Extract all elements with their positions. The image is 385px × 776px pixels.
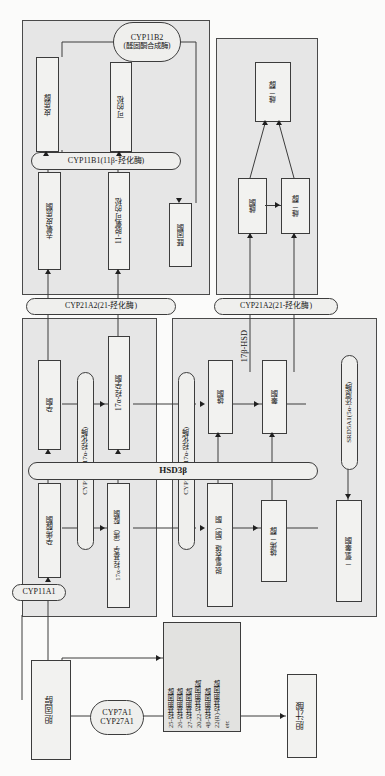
enzyme-srd5a1[interactable]: SRD5A1(5α-还原酶): [341, 355, 358, 470]
oxysterol-list[interactable]: 25-羟基胆固醇, 26-羟基胆固醇, 27-羟基胆固醇, 20,22-羟基胆固…: [163, 622, 241, 732]
arrow-to-estrone: [247, 233, 253, 238]
metabolite-androstenedione[interactable]: 雄酮: [208, 360, 233, 434]
metabolite-17a-hydroxypregnenolone[interactable]: 17α-羟基孕（烯）醇酮: [107, 483, 130, 608]
metabolite-testosterone-label: 睾酮: [271, 390, 279, 404]
enzyme-cyp7a1-cyp27a1[interactable]: CYP7A1 CYP27A1: [90, 700, 144, 735]
arrow-to-cortisol: [43, 151, 49, 156]
arrow-cholesterol-to-oxysterols: [156, 655, 161, 661]
arrow-to-17a-hydroxyprogesterone: [115, 449, 121, 454]
enzyme-cyp17a1-left-label: CYP17A1(17α-羟化酶): [82, 427, 89, 495]
arrow-progesterone-to-17ohp: [100, 401, 105, 407]
arrow-estrone-to-estradiol: [262, 120, 268, 125]
arrow-to-estradiol-lower: [291, 233, 297, 238]
enzyme-cyp21a2-left[interactable]: CYP21A2(21-羟化酶): [26, 298, 176, 315]
metabolite-dihydrotestosterone[interactable]: 二氢睾酮: [336, 500, 362, 602]
metabolite-testosterone[interactable]: 睾酮: [262, 360, 287, 434]
metabolite-pregnenolone-label: 孕烯醇酮: [46, 516, 54, 545]
metabolite-dhea[interactable]: 脱氢表雄（酮）酮: [207, 483, 233, 607]
metabolite-pregnenolone[interactable]: 孕烯醇酮: [38, 483, 61, 578]
metabolite-androstenediol[interactable]: 雄烯二醇: [261, 500, 287, 582]
metabolite-17a-hydroxyprogesterone[interactable]: 17α-羟孕酮: [108, 336, 130, 450]
arrow-cholesterol-to-bile-acid: [280, 713, 285, 719]
arrow-pregnenolone-to-17ohpreg: [100, 525, 105, 531]
metabolite-dhea-label: 脱氢表雄（酮）酮: [216, 516, 223, 574]
metabolite-estrone-label: 雌酮: [249, 199, 257, 213]
metabolite-androstenediol-label: 雄烯二醇: [270, 527, 278, 556]
arrow-to-deoxycorticosterone: [45, 269, 51, 274]
enzyme-cyp27a1-label: CYP27A1: [100, 718, 133, 726]
enzyme-srd5a1-label: SRD5A1(5α-还原酶): [346, 382, 353, 443]
enzyme-cyp17a1-left[interactable]: CYP17A1(17α-羟化酶): [77, 372, 94, 550]
arrow-to-cortisone: [116, 151, 122, 156]
metabolite-bile-acid-label: 胆汁酸: [297, 702, 306, 730]
arrow-dhea-to-androstenedione: [215, 432, 221, 437]
enzyme-cyp11b1[interactable]: CYP11B1(11β-羟化酶): [31, 152, 181, 170]
metabolite-progesterone-label: 孕酮: [46, 398, 54, 412]
arrow-to-aldosterone: [176, 198, 182, 203]
arrow-androstenediol-to-testosterone: [269, 432, 275, 437]
arrow-to-dhea: [200, 525, 205, 531]
arrow-to-pregnenolone: [45, 577, 51, 582]
metabolite-cholesterol[interactable]: 胆固醇: [31, 660, 71, 760]
metabolite-dihydrotestosterone-label: 二氢睾酮: [345, 537, 353, 566]
diagram-canvas: CYP11B2 (醛固酮合成酶) 皮质醇 可的松 CYP11B1(11β-羟化酶…: [0, 0, 385, 776]
enzyme-cyp11a1-label: CYP11A1: [22, 588, 55, 596]
arrow-to-11-deoxycortisol: [115, 269, 121, 274]
enzyme-17b-hsd-label: 17β-HSD: [240, 330, 249, 362]
arrow-estradiol-to-estradiol: [276, 120, 282, 125]
arrow-dhea-to-androstenediol: [253, 525, 258, 531]
metabolite-cortisone[interactable]: 可的松: [110, 62, 132, 152]
metabolite-17a-hydroxypregnenolone-label: 17α-羟基孕（烯）醇酮: [115, 510, 122, 581]
enzyme-cyp11b1-label: CYP11B1(11β-羟化酶): [68, 157, 144, 165]
arrow-to-dihydrotestosterone: [345, 494, 351, 499]
metabolite-estradiol-lower[interactable]: 雌二醇: [281, 178, 310, 234]
enzyme-cyp11a1[interactable]: CYP11A1: [12, 584, 66, 601]
metabolite-estrone[interactable]: 雌酮: [238, 178, 267, 234]
metabolite-aldosterone-label: 醛固酮: [177, 224, 185, 246]
enzyme-cyp11b2-line2: (醛固酮合成酶): [124, 42, 171, 50]
enzyme-17b-hsd[interactable]: 17β-HSD: [240, 330, 249, 362]
metabolite-11-deoxycortisol[interactable]: 11-脱氧可的松: [108, 172, 130, 270]
enzyme-cyp17a1-right-label: CYP17A1(17α-羟化酶): [183, 427, 190, 495]
arrow-to-progesterone: [45, 449, 51, 454]
metabolite-deoxycorticosterone-label: 去氧皮质酮: [46, 203, 54, 239]
metabolite-estradiol-top[interactable]: 雌二醇: [255, 62, 291, 122]
metabolite-estradiol-lower-label: 雌二醇: [292, 195, 300, 217]
metabolite-cortisol-label: 皮质醇: [44, 94, 52, 116]
enzyme-hsd3b[interactable]: HSD3β: [28, 462, 318, 480]
enzyme-cyp11b2[interactable]: CYP11B2 (醛固酮合成酶): [113, 22, 181, 62]
metabolite-estradiol-top-label: 雌二醇: [269, 81, 277, 103]
metabolite-17a-hydroxyprogesterone-label: 17α-羟孕酮: [115, 375, 123, 411]
arrow-to-androstenedione: [200, 401, 205, 407]
metabolite-cortisol[interactable]: 皮质醇: [36, 57, 59, 152]
metabolite-bile-acid[interactable]: 胆汁酸: [287, 674, 317, 758]
metabolite-androstenedione-label: 雄酮: [217, 390, 225, 404]
metabolite-cholesterol-label: 胆固醇: [46, 696, 55, 724]
enzyme-cyp21a2-left-label: CYP21A2(21-羟化酶): [65, 302, 137, 310]
metabolite-aldosterone[interactable]: 醛固酮: [169, 203, 192, 267]
enzyme-cyp21a2-right[interactable]: CYP21A2(21-羟化酶): [214, 298, 338, 315]
metabolite-cortisone-label: 可的松: [117, 96, 125, 118]
metabolite-11-deoxycortisol-label: 11-脱氧可的松: [115, 198, 123, 244]
enzyme-cyp17a1-right[interactable]: CYP17A1(17α-羟化酶): [178, 372, 195, 550]
metabolite-progesterone[interactable]: 孕酮: [38, 360, 61, 450]
metabolite-deoxycorticosterone[interactable]: 去氧皮质酮: [38, 172, 61, 270]
enzyme-cyp21a2-right-label: CYP21A2(21-羟化酶): [240, 302, 312, 310]
oxysterol-list-text: 25-羟基胆固醇, 26-羟基胆固醇, 27-羟基胆固醇, 20,22-羟基胆固…: [167, 679, 230, 728]
arrow-androstenedione-to-testosterone: [254, 401, 259, 407]
arrow-estrone-estradiol-h: [275, 202, 280, 208]
enzyme-hsd3b-label: HSD3β: [159, 466, 187, 475]
